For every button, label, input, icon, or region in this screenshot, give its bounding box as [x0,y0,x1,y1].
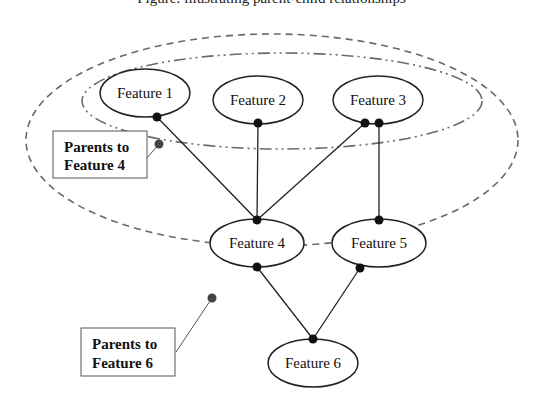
node-feature-6[interactable]: Feature 6 [268,339,358,387]
connector-dot-icon [309,335,318,344]
node-label: Feature 2 [230,92,286,108]
node-label: Feature 3 [350,92,406,108]
node-label: Feature 1 [117,85,173,101]
dag-diagram: Feature 1 Feature 2 Feature 3 Feature 4 … [0,0,543,407]
annotation-line-2: Feature 6 [92,355,153,371]
connector-dot-icon [253,263,262,272]
connector-dot-icon [153,113,162,122]
connector-dot-icon [356,264,365,273]
edge-f5-f6 [313,268,360,339]
connector-dot-icon [375,119,384,128]
node-label: Feature 4 [229,235,286,251]
connector-dot-icon [375,216,384,225]
annotation-line-1: Parents to [92,336,157,352]
connector-dot-icon [361,119,370,128]
annotation-parents-to-feature-6: Parents to Feature 6 [81,294,217,377]
annotation-parents-to-feature-4: Parents to Feature 4 [53,131,164,178]
edge-f3-f4 [257,123,365,220]
node-label: Feature 5 [351,235,407,251]
node-feature-3[interactable]: Feature 3 [333,76,423,124]
edge-f2-f4 [257,123,258,220]
annotation-line-1: Parents to [64,139,129,155]
connector-dot-icon [254,119,263,128]
edge-f4-f6 [257,267,313,339]
node-feature-4[interactable]: Feature 4 [210,219,304,267]
node-feature-5[interactable]: Feature 5 [332,219,426,267]
annotation-line-2: Feature 4 [64,157,125,173]
node-feature-1[interactable]: Feature 1 [100,69,190,117]
edge-f1-f4 [157,117,257,220]
connector-dot-icon [253,216,262,225]
node-label: Feature 6 [285,355,342,371]
node-feature-2[interactable]: Feature 2 [213,76,303,124]
